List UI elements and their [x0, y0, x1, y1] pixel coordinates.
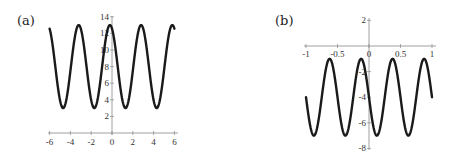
y-tick-label: -8: [359, 143, 367, 153]
y-tick-label: -4: [359, 92, 367, 102]
x-tick-label: -0.5: [330, 49, 345, 59]
x-tick-label: -4: [67, 137, 75, 147]
x-tick-label: 0: [367, 49, 372, 59]
x-tick-label: 2: [131, 137, 136, 147]
panel-b: (b) -1-0.500.51 2-2-4-6-8: [275, 13, 436, 153]
y-tick-label: 14: [100, 12, 110, 22]
y-tick-label: -6: [359, 118, 367, 128]
y-tick-label: 4: [105, 95, 110, 105]
figure: (a) -6-4-20246 2468101214 (b) -1-0.500.5…: [0, 0, 458, 157]
x-tick-label: 0: [110, 137, 115, 147]
x-tick-label: 0.5: [395, 49, 407, 59]
panel-a: (a) -6-4-20246 2468101214: [17, 12, 178, 147]
x-tick-label: -6: [46, 137, 54, 147]
x-tick-label: -2: [87, 137, 95, 147]
panel-b-label: (b): [275, 13, 293, 28]
x-tick-label: 6: [172, 137, 177, 147]
x-tick-label: 1: [430, 49, 435, 59]
y-tick-label: 2: [362, 15, 367, 25]
y-tick-label: 8: [105, 62, 110, 72]
x-tick-label: -1: [302, 49, 310, 59]
panel-a-label: (a): [17, 13, 35, 28]
y-tick-label: 2: [105, 111, 110, 121]
x-tick-label: 4: [151, 137, 156, 147]
y-tick-label: 6: [105, 78, 110, 88]
